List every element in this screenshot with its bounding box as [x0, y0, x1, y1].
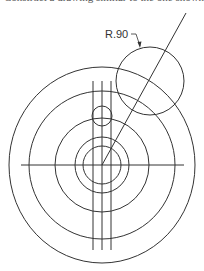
dimension-label: R.90: [105, 28, 128, 40]
technical-drawing: R.90: [0, 0, 204, 271]
leader-arrowhead-icon: [138, 42, 142, 49]
